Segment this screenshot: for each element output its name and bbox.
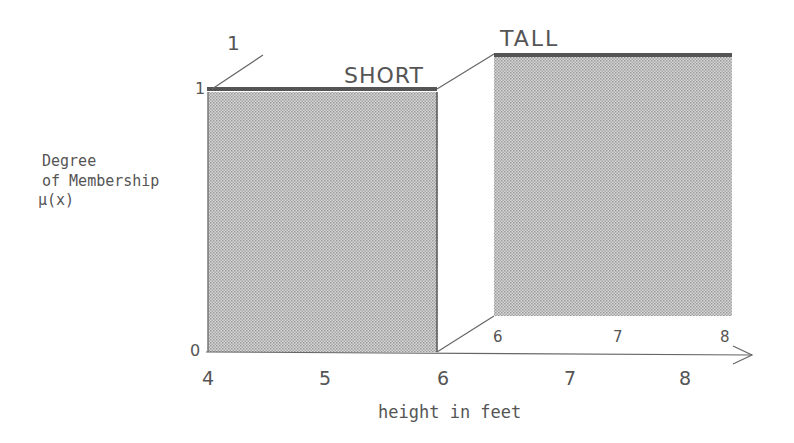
y-axis-label-line3: μ(x): [38, 191, 74, 209]
y-tick-zero: 0: [190, 341, 200, 360]
depth-line-top: [437, 54, 494, 89]
y-axis-label-line1: Degree: [42, 152, 96, 170]
y-axis-label-line2: of Membership: [42, 172, 159, 190]
back-x-tick-7: 7: [613, 328, 623, 346]
crisp-sets-diagram: 1 1 0 SHORT TALL Degree of Membership μ(…: [0, 0, 794, 443]
short-label: SHORT: [344, 63, 424, 88]
y-tick-one: 1: [195, 79, 205, 98]
depth-one-label: 1: [227, 31, 240, 55]
short-set-block: [207, 89, 437, 352]
x-tick-6: 6: [437, 367, 449, 389]
depth-line-one: [212, 55, 263, 89]
x-axis-label: height in feet: [378, 402, 521, 422]
back-x-tick-6: 6: [493, 328, 503, 346]
back-x-tick-8: 8: [720, 328, 730, 346]
x-tick-5: 5: [319, 367, 331, 389]
x-tick-8: 8: [679, 367, 691, 389]
x-tick-7: 7: [564, 367, 576, 389]
tall-label: TALL: [499, 26, 559, 51]
tall-set-block: [494, 55, 732, 316]
depth-line-bottom: [437, 316, 494, 352]
x-tick-4: 4: [202, 367, 214, 389]
